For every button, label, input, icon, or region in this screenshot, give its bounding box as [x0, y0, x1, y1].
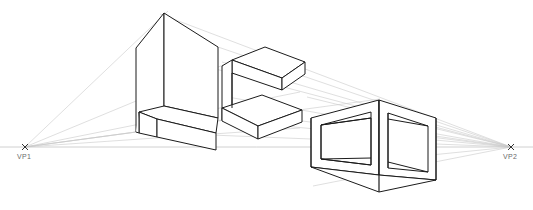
vp1-label: VP1 — [17, 153, 31, 160]
drawing-canvas: VP1 VP2 — [0, 0, 533, 210]
perspective-drawing: VP1 VP2 — [0, 0, 533, 210]
vp2-label: VP2 — [503, 153, 517, 160]
